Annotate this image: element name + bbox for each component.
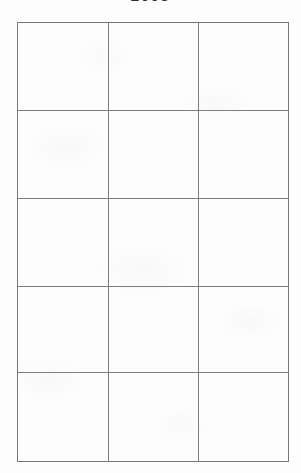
table-cell[interactable] [109,199,199,287]
table-cell[interactable] [199,111,289,199]
table-cell[interactable] [109,23,199,111]
table-cell[interactable] [18,373,109,462]
empty-grid-table [17,22,289,462]
table-row [18,23,289,111]
table-cell[interactable] [199,373,289,462]
table-cell[interactable] [109,111,199,199]
page-title: 2008 [0,0,301,4]
table-cell[interactable] [199,199,289,287]
table-row [18,111,289,199]
table-cell[interactable] [199,287,289,373]
table-cell[interactable] [18,23,109,111]
table-cell[interactable] [109,287,199,373]
table-cell[interactable] [199,23,289,111]
table-row [18,287,289,373]
table-cell[interactable] [18,199,109,287]
table-cell[interactable] [109,373,199,462]
scanned-page: 2008 [0,0,301,473]
table-row [18,373,289,462]
table-cell[interactable] [18,111,109,199]
table-cell[interactable] [18,287,109,373]
table-row [18,199,289,287]
table-body [18,23,289,462]
